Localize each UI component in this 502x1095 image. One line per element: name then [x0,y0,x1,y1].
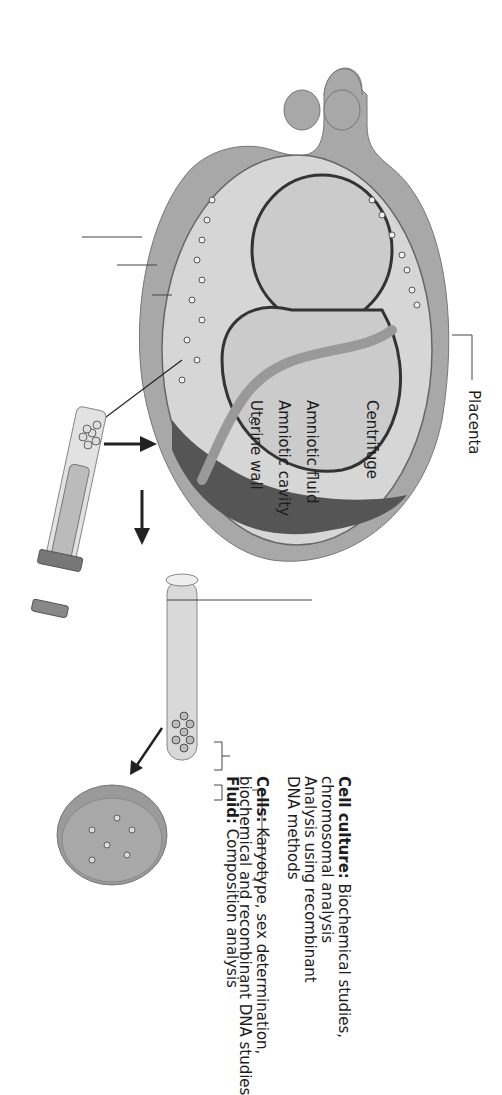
syringe [31,406,107,618]
culture-dish [57,785,167,885]
result-cell-culture-line4: DNA methods [284,776,301,1038]
result-cells-line1: Karyotype, sex determination, [253,827,271,1054]
result-cell-culture: Cell culture: Biochemical studies, chrom… [284,776,352,1038]
result-cells-line2: biochemical and recombinant DNA studies [236,776,253,1095]
result-cells-title: Cells: [253,776,271,822]
result-cell-culture-line3: Analysis using recombinant [301,776,318,1038]
centrifuge-arrows [104,436,157,545]
test-tube [166,574,198,760]
cervix-lobe-lower [284,90,320,130]
arrow-to-dish-head [130,760,143,775]
result-cells: Cells: Karyotype, sex determination, bio… [236,776,270,1095]
label-uterine-wall: Uterine wall [247,400,264,490]
label-centrifuge: Centrifuge [363,400,380,479]
result-cell-culture-line2: chromosomal analysis [318,776,335,1038]
label-amniotic-cavity: Amniotic cavity [275,400,292,516]
label-amniotic-fluid: Amniotic fluid [303,400,320,503]
result-cell-culture-line1: Biochemical studies, [335,884,353,1038]
label-placenta: Placenta [465,390,482,454]
result-cell-culture-title: Cell culture: [335,776,353,879]
cervix-lobe-upper [324,90,360,130]
arrow-to-dish [137,728,162,765]
